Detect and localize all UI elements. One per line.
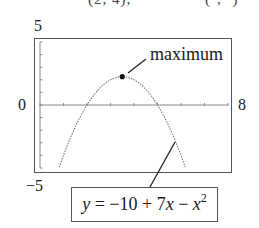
formula-box: y = −10 + 7x − x2 — [71, 187, 218, 222]
parabola-curve — [59, 77, 185, 167]
formula-mid: = −10 + 7 — [90, 194, 165, 214]
formula-y: y — [82, 194, 90, 214]
formula-x2: x — [193, 194, 201, 214]
maximum-label: maximum — [150, 45, 223, 63]
formula-x: x — [166, 194, 174, 214]
formula-exponent: 2 — [201, 191, 207, 205]
formula-leader-line — [150, 142, 175, 187]
maximum-leader-line — [128, 59, 146, 73]
formula-minus: − — [174, 194, 193, 214]
maximum-point — [120, 74, 125, 79]
